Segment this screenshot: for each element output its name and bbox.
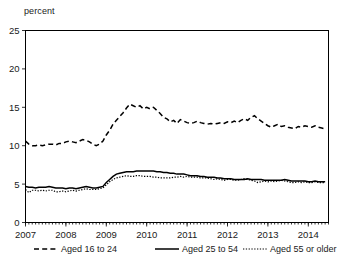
series-group: [26, 104, 326, 192]
x-tick-label: 2008: [55, 229, 76, 240]
unemployment-rate-by-age-chart: percent 0510152025 200720082009201020112…: [0, 0, 342, 264]
chart-plot-area: 0510152025 20072008200920102011201220132…: [0, 0, 342, 264]
legend-label: Aged 25 to 54: [182, 244, 238, 254]
legend-label: Aged 16 to 24: [61, 244, 117, 254]
chart-svg: 0510152025 20072008200920102011201220132…: [0, 0, 342, 264]
x-tick-label: 2013: [257, 229, 278, 240]
y-tick-label: 0: [14, 217, 19, 228]
x-tick-label: 2010: [136, 229, 157, 240]
x-tick-label: 2009: [96, 229, 117, 240]
x-tick-label: 2014: [298, 229, 319, 240]
series-line-aged-55-or-older: [26, 176, 326, 193]
x-axis-tick-group: 20072008200920102011201220132014: [15, 223, 319, 240]
legend-label: Aged 55 or older: [270, 244, 337, 254]
y-tick-label: 20: [9, 63, 20, 74]
series-line-aged-25-to-54: [26, 171, 326, 189]
x-tick-label: 2011: [177, 229, 197, 240]
chart-legend: Aged 16 to 24Aged 25 to 54Aged 55 or old…: [34, 244, 337, 254]
y-tick-label: 25: [9, 25, 20, 36]
series-line-aged-16-to-24: [26, 104, 326, 145]
y-tick-label: 15: [9, 102, 20, 113]
y-axis-tick-group: 0510152025: [9, 25, 26, 228]
y-tick-label: 5: [14, 179, 19, 190]
x-tick-label: 2007: [15, 229, 36, 240]
y-tick-label: 10: [9, 140, 20, 151]
x-tick-label: 2012: [217, 229, 238, 240]
